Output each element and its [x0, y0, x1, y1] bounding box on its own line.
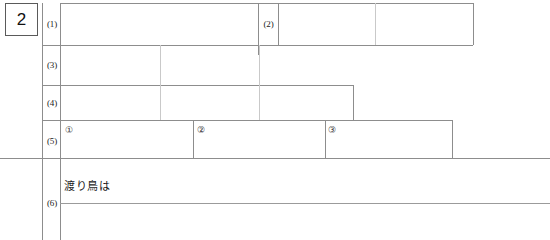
- answer-cell-5b[interactable]: [194, 121, 324, 157]
- answer-cell-5a[interactable]: [61, 121, 192, 157]
- answer-cell-2a[interactable]: [279, 4, 374, 44]
- row-label-5: (5): [43, 136, 61, 146]
- answer-cell-5c[interactable]: [326, 121, 451, 157]
- row-label-3: (3): [43, 60, 61, 70]
- answer-cell-4b[interactable]: [159, 86, 258, 119]
- answer-cell-3b[interactable]: [161, 46, 258, 84]
- row-1-sublabel-2: (2): [259, 19, 278, 29]
- row-1-right-rule: [473, 3, 474, 45]
- answer-cell-6-line-2[interactable]: [61, 204, 550, 240]
- row-label-6: (6): [43, 198, 61, 208]
- answer-cell-1[interactable]: [61, 4, 257, 44]
- answer-cell-4a[interactable]: [61, 86, 157, 119]
- question-number-box: 2: [5, 3, 38, 36]
- answer-cell-4c[interactable]: [260, 86, 352, 119]
- answer-cell-2b[interactable]: [376, 4, 472, 44]
- row-label-1: (1): [43, 19, 61, 29]
- answer-cell-3a[interactable]: [61, 46, 159, 84]
- answer-sheet: 2 (1) (3) (4) (5) (6) (2) ① ② ③ 渡り鳥は: [0, 0, 550, 240]
- question-number-text: 2: [17, 10, 26, 30]
- row-4-right-rule: [353, 85, 354, 120]
- answer-cell-6-line-1[interactable]: [61, 159, 550, 202]
- answer-cell-3c[interactable]: [260, 46, 352, 84]
- row-5-right-rule: [452, 120, 453, 158]
- row-label-4: (4): [43, 98, 61, 108]
